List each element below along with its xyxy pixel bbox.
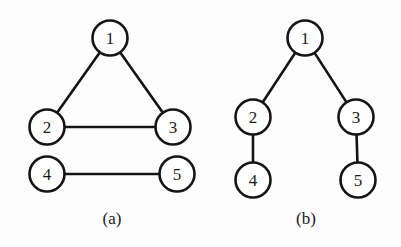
node-label-4: 4 — [249, 171, 258, 190]
graph-edge-1-3 — [314, 52, 347, 103]
graph-node-4[interactable]: 4 — [30, 157, 65, 192]
edges-layer — [57, 51, 358, 174]
graph-node-1[interactable]: 1 — [288, 21, 323, 56]
graph-node-1[interactable]: 1 — [93, 21, 128, 56]
graph-node-4[interactable]: 4 — [236, 163, 271, 198]
nodes-layer: 1234512345 — [30, 21, 376, 198]
graph-edge-1-2 — [262, 52, 296, 103]
graph-node-3[interactable]: 3 — [156, 110, 191, 145]
graph-node-5[interactable]: 5 — [160, 157, 195, 192]
graph-edge-3-5 — [357, 133, 358, 163]
node-label-1: 1 — [106, 29, 115, 48]
captions-layer: (a)(b) — [103, 209, 316, 228]
graph-node-5[interactable]: 5 — [341, 163, 376, 198]
node-label-2: 2 — [249, 108, 258, 127]
graph-node-2[interactable]: 2 — [236, 100, 271, 135]
panel-caption-panel-b: (b) — [296, 209, 316, 228]
node-label-5: 5 — [173, 165, 182, 184]
node-label-3: 3 — [352, 108, 361, 127]
graph-edge-1-2 — [57, 51, 101, 113]
graph-node-3[interactable]: 3 — [339, 100, 374, 135]
graph-node-2[interactable]: 2 — [30, 110, 65, 145]
node-label-5: 5 — [354, 171, 363, 190]
figure-container: 1234512345 (a)(b) — [0, 0, 401, 247]
node-label-3: 3 — [169, 118, 178, 137]
graph-figure-canvas: 1234512345 (a)(b) — [0, 0, 401, 247]
node-label-4: 4 — [43, 165, 52, 184]
panel-caption-panel-a: (a) — [103, 209, 122, 228]
graph-edge-1-3 — [120, 51, 164, 113]
node-label-2: 2 — [43, 118, 52, 137]
node-label-1: 1 — [301, 29, 310, 48]
